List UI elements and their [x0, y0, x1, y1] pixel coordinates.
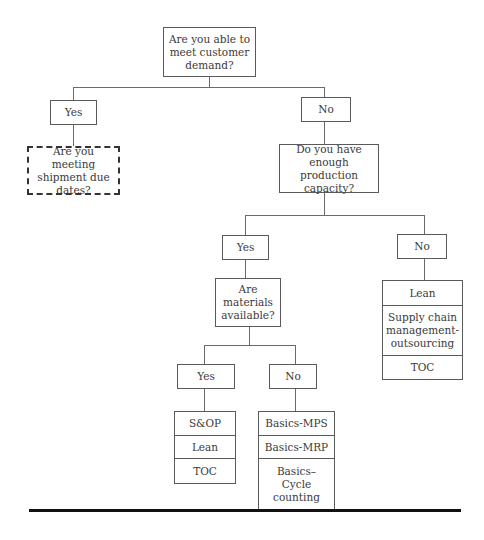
capacity-no-tools-stack: Lean Supply chain management-outsourcing… — [382, 280, 463, 380]
tool-supply-chain-management: Supply chain management-outsourcing — [383, 306, 462, 356]
connector — [424, 215, 425, 234]
tool-toc: TOC — [383, 356, 462, 379]
root-no-node: No — [301, 97, 351, 122]
connector — [245, 215, 246, 235]
connector — [204, 345, 295, 346]
materials-yes-node: Yes — [177, 364, 235, 389]
connector — [204, 388, 205, 411]
capacity-question-node: Do you have enough production capacity? — [279, 144, 379, 193]
connector — [324, 87, 325, 97]
connector — [295, 388, 296, 411]
bottom-rule — [29, 509, 461, 512]
connector — [424, 258, 425, 280]
capacity-yes-node: Yes — [222, 235, 269, 260]
connector — [324, 121, 325, 144]
tool-basics-mrp: Basics-MRP — [259, 436, 334, 459]
capacity-no-node: No — [397, 234, 447, 259]
connector — [73, 87, 324, 88]
tool-basics-cycle-counting: Basics–Cycle counting — [259, 459, 334, 510]
root-yes-node: Yes — [50, 100, 97, 125]
connector — [209, 76, 210, 87]
connector — [73, 87, 74, 100]
connector — [324, 192, 325, 215]
tool-lean: Lean — [383, 281, 462, 306]
connector — [204, 345, 205, 364]
tool-basics-mps: Basics-MPS — [259, 412, 334, 436]
connector — [73, 124, 74, 146]
connector — [245, 259, 246, 278]
tool-lean: Lean — [175, 436, 235, 459]
materials-question-node: Are materials available? — [215, 278, 281, 327]
materials-no-node: No — [269, 364, 317, 389]
tool-sop: S&OP — [175, 412, 235, 436]
materials-yes-tools-stack: S&OP Lean TOC — [174, 411, 236, 484]
connector — [295, 345, 296, 364]
materials-no-tools-stack: Basics-MPS Basics-MRP Basics–Cycle count… — [258, 411, 335, 511]
shipment-question-node: Are you meeting shipment due dates? — [27, 146, 120, 195]
connector — [245, 215, 424, 216]
connector — [249, 326, 250, 345]
tool-toc: TOC — [175, 459, 235, 483]
root-question-node: Are you able to meet customer demand? — [163, 27, 256, 77]
